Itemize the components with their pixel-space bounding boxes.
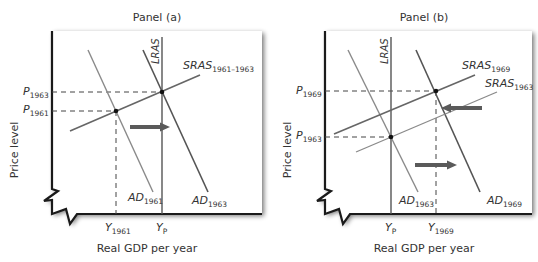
- x-tick-yp: YP: [385, 221, 397, 236]
- equilibrium-point-1963: [389, 135, 394, 140]
- x-axis-title: Real GDP per year: [374, 242, 475, 255]
- equilibrium-point-1963: [160, 90, 165, 95]
- y-tick-p1963: P1963: [296, 129, 322, 144]
- equilibrium-point-1969: [434, 89, 439, 94]
- panel-b: Panel (b) LRAS SRAS1969 SRAS1963 AD1963: [281, 11, 533, 255]
- y-axis-title: Price level: [8, 122, 21, 179]
- y-axis-title: Price level: [281, 122, 294, 179]
- x-tick-y1961: Y1961: [105, 221, 131, 236]
- panel-a-title: Panel (a): [133, 11, 182, 24]
- y-tick-p1961: P1961: [23, 103, 49, 118]
- x-tick-y1969: Y1969: [428, 221, 454, 236]
- panel-a: Panel (a) LRAS SRAS1961–1963 AD1961 AD19…: [8, 11, 262, 255]
- panel-b-title: Panel (b): [400, 11, 449, 24]
- y-tick-p1969: P1969: [296, 84, 322, 99]
- ad-as-diagram: Panel (a) LRAS SRAS1961–1963 AD1961 AD19…: [0, 0, 538, 262]
- x-tick-yp: YP: [156, 221, 168, 236]
- lras-label: LRAS: [150, 38, 161, 64]
- lras-label: LRAS: [379, 38, 390, 64]
- equilibrium-point-1961: [114, 109, 119, 114]
- x-axis-title: Real GDP per year: [97, 242, 198, 255]
- y-tick-p1963: P1963: [23, 85, 49, 100]
